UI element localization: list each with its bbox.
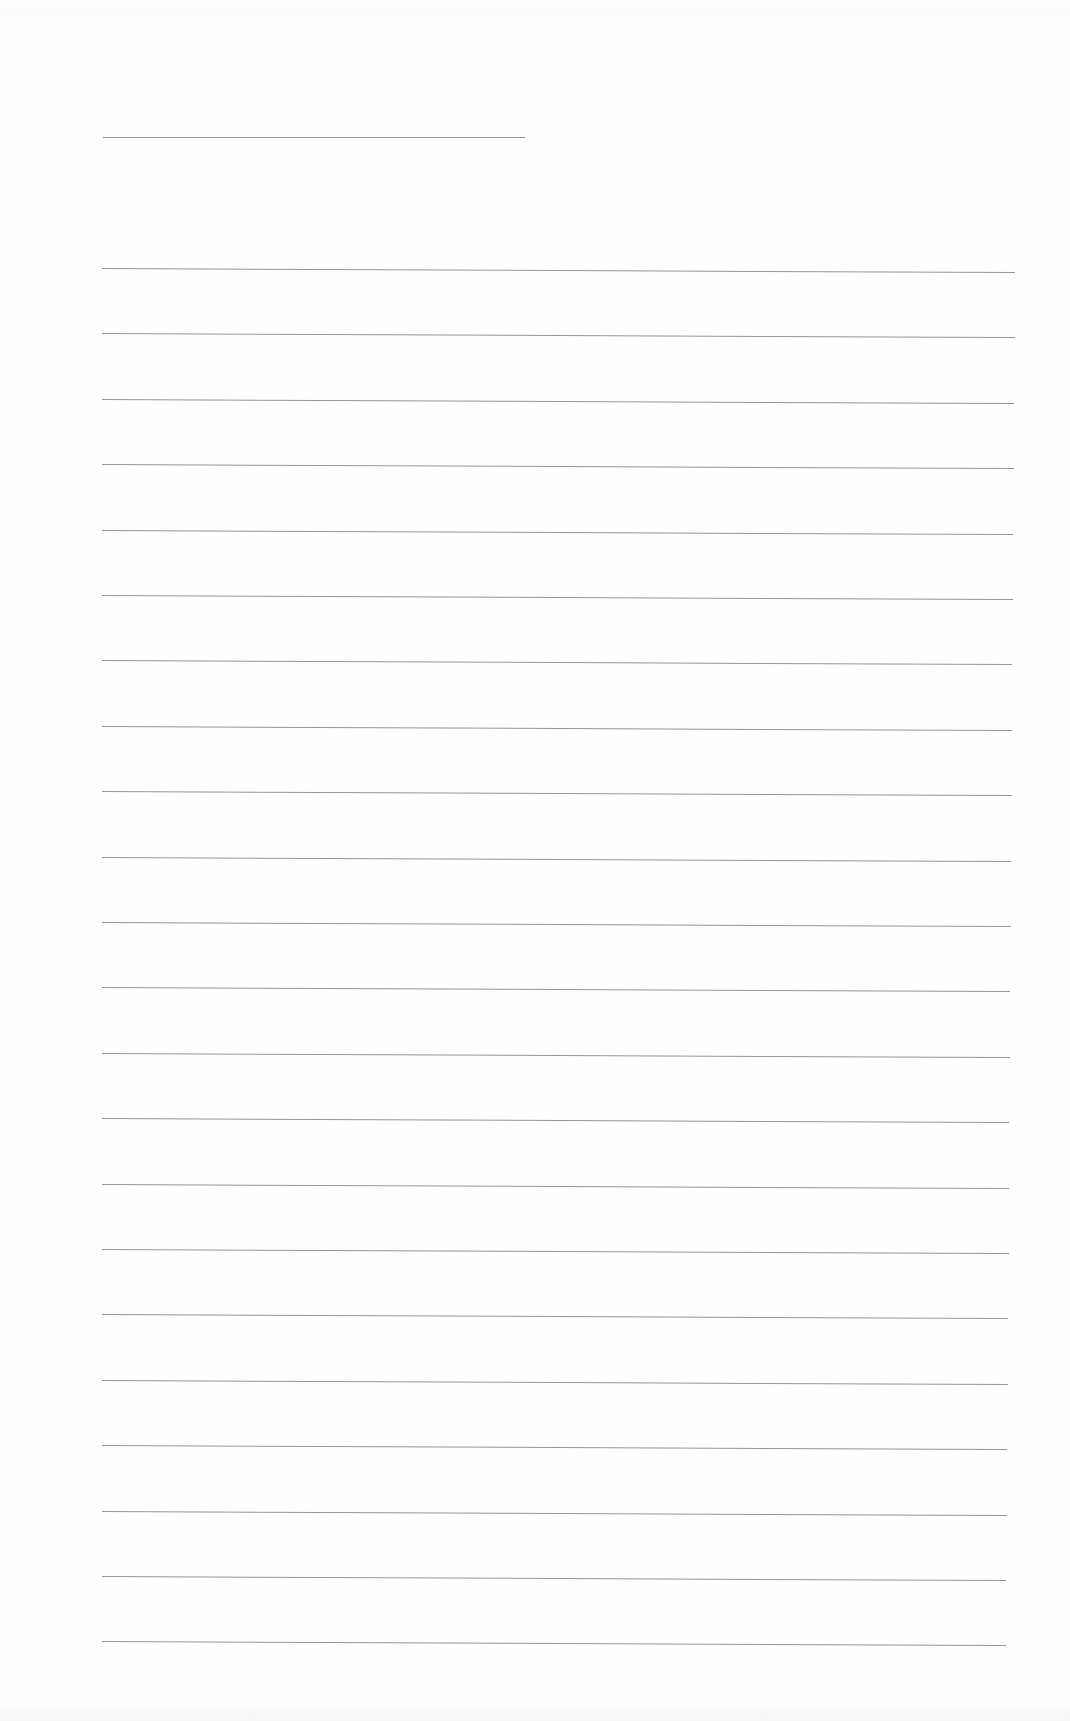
ruled-line (102, 726, 1012, 731)
ruled-line (102, 1380, 1008, 1385)
ruled-line (102, 399, 1014, 404)
ruled-line (102, 1641, 1006, 1646)
ruled-line (102, 857, 1011, 862)
ruled-lines-container (0, 0, 1070, 1721)
ruled-line (102, 922, 1011, 927)
ruled-line (102, 595, 1013, 600)
scan-bleed-through-bottom (0, 1699, 1070, 1721)
ruled-line (102, 1576, 1006, 1581)
ruled-line (102, 464, 1014, 469)
ruled-line (102, 1118, 1009, 1123)
ruled-line (102, 660, 1012, 665)
lined-paper-page (0, 0, 1070, 1721)
ruled-line (102, 333, 1015, 338)
ruled-line (102, 268, 1015, 273)
ruled-line (102, 1511, 1007, 1516)
ruled-line (102, 530, 1013, 535)
ruled-line (102, 1249, 1009, 1254)
ruled-line (102, 1184, 1009, 1189)
ruled-line (102, 987, 1010, 992)
ruled-line (102, 1445, 1007, 1450)
ruled-line (102, 1053, 1010, 1058)
ruled-line (102, 1314, 1008, 1319)
ruled-line (102, 791, 1012, 796)
